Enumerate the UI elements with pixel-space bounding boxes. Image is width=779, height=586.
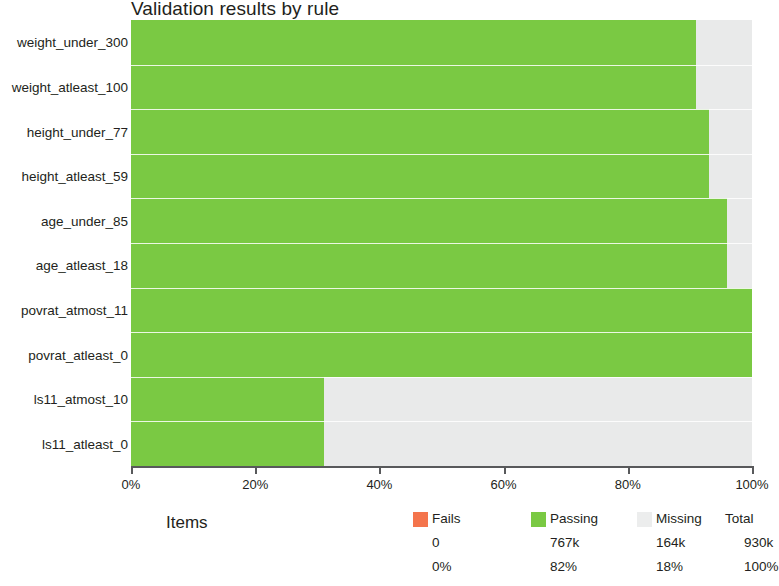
bar-segment-passing (131, 243, 727, 288)
bar-segment-missing (727, 243, 752, 288)
x-axis-tick (752, 466, 754, 474)
row-separator (131, 65, 752, 66)
bar-segment-missing (696, 20, 752, 65)
bar-segment-passing (131, 377, 324, 422)
bar-segment-passing (131, 332, 752, 377)
row-separator (131, 243, 752, 244)
fails-swatch (413, 512, 428, 527)
y-axis-label-height_atleast_59: height_atleast_59 (3, 169, 128, 184)
bar-segment-missing (727, 198, 752, 243)
plot-area (131, 20, 752, 466)
legend-header-fails: Fails (432, 509, 461, 529)
bar-segment-passing (131, 421, 324, 466)
bar-row (131, 109, 752, 154)
y-axis-label-povrat_atmost_11: povrat_atmost_11 (3, 302, 128, 317)
items-label: Items (166, 513, 208, 533)
legend-percent-total: 100% (744, 557, 779, 577)
y-axis-label-ls11_atmost_10: ls11_atmost_10 (3, 392, 128, 407)
x-axis-line (131, 466, 753, 468)
row-separator (131, 154, 752, 155)
row-separator (131, 109, 752, 110)
x-axis-tick (255, 466, 257, 474)
row-separator (131, 198, 752, 199)
bar-segment-passing (131, 288, 752, 333)
legend-header-total: Total (725, 509, 754, 529)
legend-count-passing: 767k (550, 533, 579, 553)
bar-segment-passing (131, 109, 709, 154)
passing-swatch (531, 512, 546, 527)
bar-row (131, 20, 752, 65)
bar-row (131, 377, 752, 422)
bar-row (131, 421, 752, 466)
y-axis-label-povrat_atleast_0: povrat_atleast_0 (3, 347, 128, 362)
chart-title: Validation results by rule (131, 0, 339, 20)
bar-segment-passing (131, 20, 696, 65)
bar-row (131, 288, 752, 333)
y-axis-label-age_under_85: age_under_85 (3, 213, 128, 228)
bar-row (131, 332, 752, 377)
x-axis-tick-label: 20% (242, 477, 268, 492)
x-axis-tick-label: 80% (615, 477, 641, 492)
x-axis-tick-label: 100% (735, 477, 768, 492)
x-axis-tick (628, 466, 630, 474)
bar-segment-passing (131, 65, 696, 110)
y-axis-label-ls11_atleast_0: ls11_atleast_0 (3, 436, 128, 451)
bar-row (131, 198, 752, 243)
legend-count-fails: 0 (432, 533, 440, 553)
row-separator (131, 377, 752, 378)
row-separator (131, 288, 752, 289)
x-axis-tick (379, 466, 381, 474)
legend-header-missing: Missing (656, 509, 702, 529)
x-axis-tick-label: 60% (491, 477, 517, 492)
y-axis-label-weight_under_300: weight_under_300 (3, 35, 128, 50)
missing-swatch (637, 512, 652, 527)
x-axis-tick (504, 466, 506, 474)
bar-segment-missing (709, 154, 752, 199)
legend: FailsPassingMissingTotal 0767k164k930k 0… (413, 509, 763, 581)
bar-row (131, 154, 752, 199)
legend-header-row: FailsPassingMissingTotal (413, 509, 763, 533)
x-axis-tick-label: 40% (366, 477, 392, 492)
row-separator (131, 332, 752, 333)
y-axis-labels: weight_under_300weight_atleast_100height… (0, 20, 128, 466)
legend-count-missing: 164k (656, 533, 685, 553)
row-separator (131, 421, 752, 422)
legend-count-row: 0767k164k930k (413, 533, 763, 557)
bar-segment-missing (324, 377, 752, 422)
bar-segment-passing (131, 154, 709, 199)
bar-segment-missing (324, 421, 752, 466)
bar-segment-passing (131, 198, 727, 243)
legend-percent-missing: 18% (656, 557, 683, 577)
legend-percent-row: 0%82%18%100% (413, 557, 763, 581)
legend-percent-fails: 0% (432, 557, 452, 577)
bar-row (131, 243, 752, 288)
y-axis-label-age_atleast_18: age_atleast_18 (3, 258, 128, 273)
y-axis-label-height_under_77: height_under_77 (3, 124, 128, 139)
bar-segment-missing (696, 65, 752, 110)
y-axis-label-weight_atleast_100: weight_atleast_100 (3, 79, 128, 94)
legend-count-total: 930k (744, 533, 773, 553)
x-axis-tick-label: 0% (122, 477, 141, 492)
bar-row (131, 65, 752, 110)
legend-header-passing: Passing (550, 509, 598, 529)
legend-percent-passing: 82% (550, 557, 577, 577)
bar-segment-missing (709, 109, 752, 154)
x-axis-tick (131, 466, 133, 474)
